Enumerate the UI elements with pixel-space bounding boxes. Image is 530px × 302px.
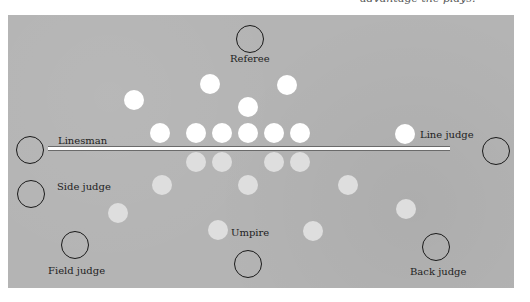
official-circle-back-judge	[422, 233, 450, 261]
official-circle-side-judge	[17, 180, 45, 208]
official-label-back-judge: Back judge	[410, 266, 466, 277]
offense-player-dot	[238, 97, 258, 117]
caption-text: advantage the plays.	[360, 0, 475, 5]
defense-player-dot	[238, 175, 258, 195]
defense-player-dot	[290, 152, 310, 172]
official-circle-linesman	[16, 136, 44, 164]
official-label-linesman: Linesman	[58, 135, 107, 146]
official-circle-umpire	[234, 250, 262, 278]
offense-player-dot	[290, 123, 310, 143]
offense-player-dot	[264, 123, 284, 143]
official-circle-field-judge	[61, 231, 89, 259]
defense-player-dot	[152, 175, 172, 195]
defense-player-dot	[212, 152, 232, 172]
defense-player-dot	[338, 175, 358, 195]
offense-player-dot	[238, 123, 258, 143]
official-circle-referee	[236, 25, 264, 53]
offense-player-dot	[395, 124, 415, 144]
defense-player-dot	[303, 221, 323, 241]
defense-player-dot	[108, 203, 128, 223]
official-label-referee: Referee	[230, 53, 270, 64]
line-of-scrimmage	[48, 146, 450, 152]
offense-player-dot	[200, 74, 220, 94]
defense-player-dot	[186, 152, 206, 172]
defense-player-dot	[396, 199, 416, 219]
official-label-umpire: Umpire	[231, 227, 269, 238]
defense-player-dot	[208, 220, 228, 240]
official-label-field-judge: Field judge	[48, 265, 105, 276]
defense-player-dot	[264, 152, 284, 172]
offense-player-dot	[124, 90, 144, 110]
official-circle-line-judge	[482, 137, 510, 165]
official-label-side-judge: Side judge	[57, 181, 111, 192]
offense-player-dot	[150, 123, 170, 143]
line-edge-bottom	[48, 150, 450, 151]
offense-player-dot	[186, 123, 206, 143]
official-label-line-judge: Line judge	[420, 129, 474, 140]
offense-player-dot	[212, 123, 232, 143]
offense-player-dot	[277, 75, 297, 95]
